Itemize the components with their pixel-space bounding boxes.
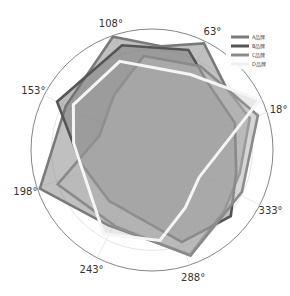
angular-tick-label: 288° — [181, 272, 205, 283]
legend-label: D品牌 — [252, 61, 266, 68]
legend-label: C品牌 — [252, 52, 266, 59]
angular-tick-label: 333° — [259, 205, 283, 216]
angular-tick-label: 18° — [270, 104, 288, 115]
legend-label: B品牌 — [252, 43, 265, 50]
legend-label: A品牌 — [252, 34, 265, 41]
angular-tick-label: 198° — [13, 186, 37, 197]
legend: A品牌B品牌C品牌D品牌 — [226, 31, 286, 69]
radar-chart: 18°63°108°153°198°243°288°333° A品牌B品牌C品牌… — [0, 0, 290, 296]
angular-tick-label: 243° — [80, 264, 104, 275]
angular-tick-label: 63° — [204, 26, 222, 37]
angular-tick-label: 153° — [21, 85, 45, 96]
series-layer — [40, 37, 260, 256]
angular-tick-label: 108° — [99, 18, 123, 29]
